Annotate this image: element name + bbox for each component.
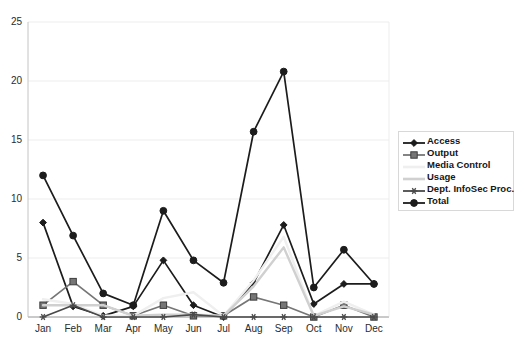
- y-tick-label: 15: [0, 135, 22, 145]
- data-point-marker: [340, 246, 347, 253]
- data-point-marker: [280, 68, 287, 75]
- data-point-marker: [281, 302, 287, 308]
- legend-label: Output: [427, 147, 458, 159]
- legend-label: Usage: [427, 171, 456, 183]
- data-point-marker: [411, 200, 418, 207]
- legend-swatch-icon: [401, 171, 427, 183]
- data-point-marker: [40, 314, 47, 320]
- data-point-marker: [280, 222, 287, 229]
- data-point-marker: [280, 314, 287, 320]
- legend-item-media-control: Media Control: [401, 159, 510, 171]
- legend-swatch-icon: [401, 135, 427, 147]
- legend-item-usage: Usage: [401, 171, 510, 183]
- legend-swatch-icon: [401, 147, 427, 159]
- data-point-marker: [70, 278, 76, 284]
- data-point-marker: [160, 207, 167, 214]
- y-tick-label: 5: [0, 253, 22, 263]
- series-total: [40, 68, 378, 308]
- y-tick-label: 10: [0, 194, 22, 204]
- plot-border: [28, 22, 389, 317]
- legend-item-total: Total: [401, 195, 510, 207]
- data-point-marker: [310, 284, 317, 291]
- data-point-marker: [411, 188, 418, 194]
- legend-label: Dept. InfoSec Proc.: [427, 183, 514, 195]
- legend-item-access: Access: [401, 135, 510, 147]
- data-point-marker: [100, 290, 107, 297]
- data-point-marker: [250, 314, 257, 320]
- x-tick-label: Dec: [354, 324, 394, 334]
- legend-label: Media Control: [427, 159, 490, 171]
- data-point-marker: [160, 302, 166, 308]
- data-point-marker: [70, 232, 77, 239]
- data-point-marker: [411, 140, 418, 147]
- data-point-marker: [250, 294, 256, 300]
- legend-label: Access: [427, 135, 460, 147]
- legend-item-dept-infosec-proc: Dept. InfoSec Proc.: [401, 183, 510, 195]
- data-point-marker: [40, 219, 47, 226]
- data-point-marker: [250, 128, 257, 135]
- data-point-marker: [190, 257, 197, 264]
- series-media-control: [43, 237, 374, 316]
- legend-label: Total: [427, 195, 449, 207]
- data-point-marker: [371, 281, 378, 288]
- chart-container: 0510152025 JanFebMarAprMayJunJulAugSepOc…: [0, 0, 516, 351]
- series-output: [40, 278, 377, 320]
- series-lines: [40, 68, 378, 320]
- series-line: [43, 237, 374, 316]
- data-point-marker: [340, 314, 347, 320]
- legend-swatch-icon: [401, 183, 427, 195]
- data-point-marker: [220, 279, 227, 286]
- y-tick-label: 20: [0, 76, 22, 86]
- legend-swatch-icon: [401, 159, 427, 171]
- y-tick-label: 25: [0, 17, 22, 27]
- data-point-marker: [40, 172, 47, 179]
- y-tick-label: 0: [0, 312, 22, 322]
- series-line: [43, 72, 374, 306]
- legend-item-output: Output: [401, 147, 510, 159]
- chart-legend: AccessOutputMedia ControlUsageDept. Info…: [398, 131, 514, 211]
- gridlines: [28, 22, 389, 317]
- legend-swatch-icon: [401, 195, 427, 207]
- data-point-marker: [411, 152, 417, 158]
- data-point-marker: [130, 302, 137, 309]
